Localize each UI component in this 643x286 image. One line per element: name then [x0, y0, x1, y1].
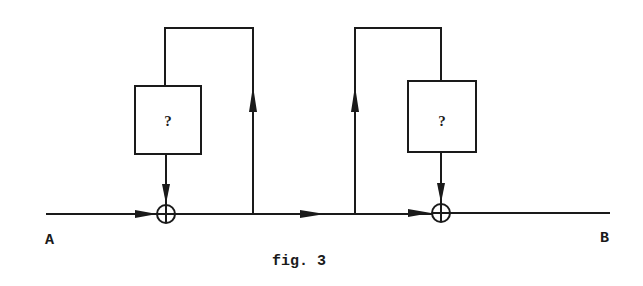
arrow-down-icon — [162, 184, 170, 204]
feedforward-path-2 — [355, 28, 441, 214]
arrow-up-icon — [351, 86, 359, 112]
output-label-b: B — [600, 230, 609, 247]
input-label-a: A — [45, 232, 54, 249]
feedback-path-1 — [165, 28, 253, 214]
block-2-label: ? — [438, 113, 446, 129]
block-1-label: ? — [164, 113, 172, 129]
arrow-right-icon — [408, 209, 431, 217]
arrow-right-icon — [135, 210, 157, 218]
arrow-up-icon — [249, 86, 257, 112]
arrow-down-icon — [437, 183, 445, 203]
figure-caption: fig. 3 — [272, 253, 326, 270]
block-diagram: ? ? — [0, 0, 643, 286]
arrow-right-icon — [300, 210, 325, 218]
